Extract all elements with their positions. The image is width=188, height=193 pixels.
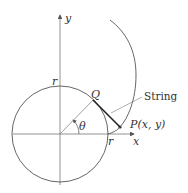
q-label: Q <box>91 88 100 101</box>
y-axis-label: y <box>64 12 72 25</box>
string-label: String <box>144 90 178 102</box>
involute-curve <box>108 20 136 134</box>
p-label: P(x, y) <box>129 118 165 131</box>
radius-oq <box>60 100 93 134</box>
r-top-label: r <box>52 75 58 88</box>
theta-label: θ <box>79 120 86 133</box>
r-right-label: r <box>108 135 114 148</box>
x-axis-label: x <box>133 135 140 148</box>
string-leader <box>111 97 142 113</box>
involute-diagram: y x r r Q θ P(x, y) String <box>0 0 188 193</box>
